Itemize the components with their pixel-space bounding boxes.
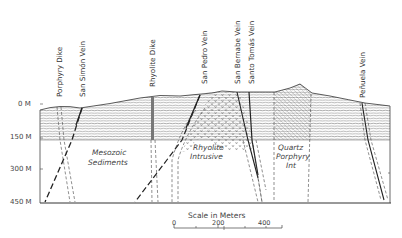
quartz-porphyry-fill	[274, 84, 312, 140]
scale-tick-400: 400	[258, 219, 270, 227]
label-santo-tomas-vein: Santo Tomás Vein	[247, 21, 256, 84]
depth-label-450: 450 M	[10, 198, 32, 206]
unit-label-quartz-1: Quartz	[278, 143, 304, 152]
unit-label-mesozoic-2: Sediments	[88, 158, 128, 167]
unit-label-mesozoic-1: Mesozoic	[92, 148, 127, 157]
label-san-simon-vein: San Simón Vein	[78, 41, 87, 97]
unit-label-rhyolite-1: Rhyolite	[193, 143, 224, 152]
scale-bar: Scale in Meters 0 200 400	[172, 211, 282, 230]
scale-tick-200: 200	[212, 219, 224, 227]
label-san-bernabe-vein: San Bernabe Vein	[233, 20, 242, 84]
unit-label-quartz-2: Porphyry	[276, 152, 310, 161]
scale-tick-0: 0	[172, 219, 176, 227]
unit-label-rhyolite-2: Intrusive	[190, 152, 223, 161]
cross-section-diagram: 0 M 150 M 300 M 450 M Mesozoic Sediments…	[0, 0, 402, 238]
depth-label-0: 0 M	[18, 100, 31, 108]
depth-label-300: 300 M	[10, 165, 32, 173]
label-san-pedro-vein: San Pedro Vein	[200, 30, 209, 84]
label-rhyolite-dike: Rhyolite Dike	[148, 39, 157, 87]
depth-label-150: 150 M	[10, 133, 32, 141]
label-porphyry-dike: Porphyry Dike	[55, 46, 64, 97]
label-penuela-vein: Peñuela Vein	[358, 52, 367, 98]
unit-label-quartz-3: Int	[286, 161, 297, 170]
